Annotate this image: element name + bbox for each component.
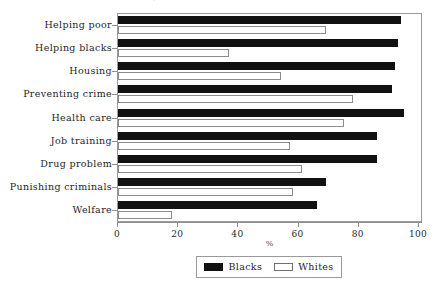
category-axis-labels: Helping poorHelping blacksHousingPrevent… xyxy=(0,13,112,222)
x-tick xyxy=(358,222,359,227)
category-label: Helping blacks xyxy=(0,43,112,53)
legend-entry-blacks: Blacks xyxy=(204,262,262,272)
category-tick xyxy=(112,141,117,142)
category-tick xyxy=(112,48,117,49)
bar-blacks-7 xyxy=(118,178,326,186)
bar-blacks-3 xyxy=(118,85,392,93)
bar-whites-3 xyxy=(118,95,353,103)
bar-blacks-1 xyxy=(118,39,398,47)
category-label: Preventing crime xyxy=(0,89,112,99)
x-tick-label: 20 xyxy=(171,229,183,239)
bar-whites-2 xyxy=(118,72,281,80)
x-tick-label: 60 xyxy=(292,229,304,239)
x-tick xyxy=(237,222,238,227)
category-tick xyxy=(112,118,117,119)
bar-blacks-4 xyxy=(118,109,404,117)
bar-blacks-8 xyxy=(118,201,317,209)
legend-label-blacks: Blacks xyxy=(228,262,262,272)
bar-whites-0 xyxy=(118,26,326,34)
category-label: Drug problem xyxy=(0,159,112,169)
hollow-white-swatch xyxy=(274,263,293,271)
legend-entry-whites: Whites xyxy=(274,262,333,272)
horizontal-bar-chart: · Helping poorHelping blacksHousingPreve… xyxy=(0,0,438,290)
bar-whites-1 xyxy=(118,49,229,57)
x-tick-label: 0 xyxy=(114,229,120,239)
x-tick xyxy=(117,222,118,227)
x-tick-label: 40 xyxy=(231,229,243,239)
category-label: Job training xyxy=(0,136,112,146)
category-tick xyxy=(112,25,117,26)
x-tick xyxy=(418,222,419,227)
category-label: Health care xyxy=(0,113,112,123)
x-tick-label: 100 xyxy=(409,229,427,239)
bar-blacks-2 xyxy=(118,62,395,70)
category-label: Punishing criminals xyxy=(0,182,112,192)
chart-title-ghost: · xyxy=(139,0,169,4)
category-tick xyxy=(112,164,117,165)
category-tick xyxy=(112,187,117,188)
category-tick xyxy=(112,94,117,95)
bar-blacks-5 xyxy=(118,132,377,140)
bars-layer xyxy=(118,14,421,221)
legend-label-whites: Whites xyxy=(298,262,333,272)
bar-blacks-6 xyxy=(118,155,377,163)
category-label: Housing xyxy=(0,66,112,76)
x-axis-title: % xyxy=(117,239,422,248)
bar-whites-6 xyxy=(118,165,302,173)
bar-whites-5 xyxy=(118,142,290,150)
bar-whites-7 xyxy=(118,188,293,196)
category-tick xyxy=(112,71,117,72)
category-label: Helping poor xyxy=(0,20,112,30)
bar-whites-4 xyxy=(118,119,344,127)
x-axis-line xyxy=(117,222,422,223)
x-tick xyxy=(298,222,299,227)
x-tick-label: 80 xyxy=(352,229,364,239)
x-tick xyxy=(177,222,178,227)
bar-whites-8 xyxy=(118,211,172,219)
filled-black-swatch xyxy=(204,263,223,271)
category-label: Welfare xyxy=(0,205,112,215)
chart-legend: Blacks Whites xyxy=(196,256,342,278)
bar-blacks-0 xyxy=(118,16,401,24)
category-tick xyxy=(112,210,117,211)
